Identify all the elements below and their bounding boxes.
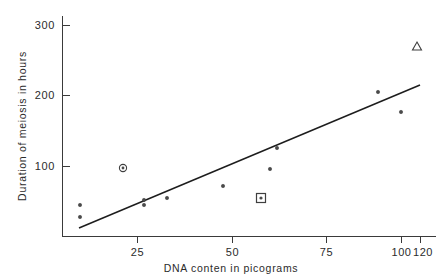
- data-point-triangle-outlier: [413, 42, 422, 50]
- y-axis-title: Duration of meiosis in hours: [16, 51, 28, 201]
- y-axis-ticks: [63, 26, 71, 167]
- axes-group: [63, 16, 437, 237]
- square-marker-dot: [259, 196, 262, 199]
- x-tick-label-50: 50: [226, 246, 239, 258]
- y-tick-label-300: 300: [35, 19, 55, 31]
- data-point: [78, 203, 81, 206]
- x-tick-label-100: 100: [391, 246, 411, 258]
- data-point: [399, 110, 402, 113]
- data-point: [78, 215, 81, 218]
- data-point: [275, 146, 278, 149]
- data-point: [376, 90, 379, 93]
- y-tick-label-200: 200: [35, 89, 55, 101]
- data-point: [221, 184, 224, 187]
- scatter-plot-figure: 300 200 100 25 50 75 100 120 DNA conten …: [0, 0, 442, 278]
- x-tick-label-120: 120: [413, 246, 433, 258]
- y-tick-label-100: 100: [35, 160, 55, 172]
- data-point-boxed-outlier: [257, 194, 266, 203]
- x-axis-ticks: [138, 237, 421, 244]
- data-points-open-circle: [78, 90, 402, 218]
- x-axis-title: DNA conten in picograms: [164, 262, 299, 274]
- circle-marker-dot: [122, 167, 125, 170]
- data-point: [165, 196, 168, 199]
- data-point: [268, 167, 271, 170]
- x-tick-label-75: 75: [320, 246, 333, 258]
- data-point: [142, 198, 145, 201]
- regression-line: [79, 85, 420, 228]
- chart-canvas: 300 200 100 25 50 75 100 120 DNA conten …: [0, 0, 442, 278]
- data-point: [142, 203, 145, 206]
- data-point-circled-outlier: [119, 164, 126, 171]
- triangle-marker: [413, 42, 422, 50]
- x-tick-label-25: 25: [131, 246, 144, 258]
